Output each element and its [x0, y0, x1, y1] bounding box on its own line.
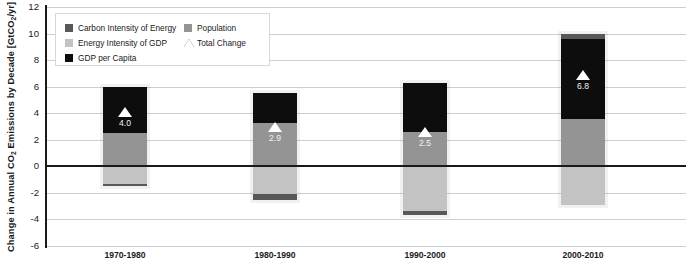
legend-label-carbon-intensity-of-energy: Carbon Intensity of Energy: [78, 23, 176, 33]
y-axis-line: [45, 5, 47, 248]
bar-segment-population: [103, 133, 147, 166]
bar-segment-energy-intensity-of-gdp: [403, 166, 447, 211]
legend-column-left: Carbon Intensity of Energy Energy Intens…: [65, 20, 176, 65]
bar-segment-energy-intensity-of-gdp: [103, 166, 147, 183]
y-tick-label-6: 6: [5, 81, 39, 92]
x-tick-label-2000-2010: 2000-2010: [523, 250, 643, 260]
bar-segment-carbon-intensity-of-energy: [403, 211, 447, 215]
emissions-decomposition-chart: Change in Annual CO2 Emissions by Decade…: [0, 0, 688, 269]
y-tick-label--4: -4: [5, 213, 39, 224]
legend-label-population: Population: [197, 23, 236, 33]
x-tick-label-1980-1990: 1980-1990: [215, 250, 335, 260]
bar-segment-population: [561, 119, 605, 167]
y-axis-title-sub-2: 2: [10, 17, 17, 21]
legend-swatch-icon-population: [184, 24, 192, 32]
legend-item-gdp-per-capita[interactable]: GDP per Capita: [65, 50, 176, 65]
bar-group-1990-2000[interactable]: 2.5: [403, 0, 447, 269]
bar-segment-energy-intensity-of-gdp: [253, 166, 297, 194]
bar-segment-carbon-intensity-of-energy: [561, 34, 605, 39]
bar-segment-carbon-intensity-of-energy: [253, 194, 297, 199]
y-tick-label-0: 0: [5, 160, 39, 171]
bar-segment-population: [403, 132, 447, 167]
chart-legend: Carbon Intensity of Energy Energy Intens…: [55, 13, 270, 66]
legend-label-energy-intensity-of-gdp: Energy Intensity of GDP: [78, 38, 167, 48]
y-tick-label-4: 4: [5, 107, 39, 118]
bar-segment-carbon-intensity-of-energy: [103, 184, 147, 187]
zero-line: [45, 165, 686, 167]
x-tick-label-1970-1980: 1970-1980: [65, 250, 185, 260]
bar-segment-gdp-per-capita: [253, 93, 297, 122]
legend-item-population[interactable]: Population: [184, 20, 246, 35]
x-tick-label-1990-2000: 1990-2000: [365, 250, 485, 260]
y-tick-label-2: 2: [5, 134, 39, 145]
y-tick-label-12: 12: [5, 1, 39, 12]
bar-segment-population: [253, 123, 297, 167]
y-tick-label-8: 8: [5, 54, 39, 65]
legend-swatch-icon-carbon-intensity-of-energy: [65, 24, 73, 32]
legend-column-right: Population Total Change: [184, 20, 246, 50]
legend-item-energy-intensity-of-gdp[interactable]: Energy Intensity of GDP: [65, 35, 176, 50]
y-tick-label--6: -6: [5, 240, 39, 251]
legend-triangle-icon-total-change: [184, 38, 194, 47]
legend-swatch-icon-gdp-per-capita: [65, 54, 73, 62]
y-tick-label--2: -2: [5, 187, 39, 198]
legend-swatch-icon-energy-intensity-of-gdp: [65, 39, 73, 47]
bar-segment-energy-intensity-of-gdp: [561, 166, 605, 205]
y-axis-title-sub-1: 2: [10, 151, 17, 155]
y-tick-label-10: 10: [5, 28, 39, 39]
bar-segment-gdp-per-capita: [403, 83, 447, 132]
bar-group-2000-2010[interactable]: 6.8: [561, 0, 605, 269]
legend-item-total-change[interactable]: Total Change: [184, 35, 246, 50]
bar-segment-gdp-per-capita: [561, 39, 605, 119]
legend-label-total-change: Total Change: [197, 38, 246, 48]
bar-segment-gdp-per-capita: [103, 87, 147, 133]
legend-item-carbon-intensity-of-energy[interactable]: Carbon Intensity of Energy: [65, 20, 176, 35]
legend-label-gdp-per-capita: GDP per Capita: [78, 53, 136, 63]
